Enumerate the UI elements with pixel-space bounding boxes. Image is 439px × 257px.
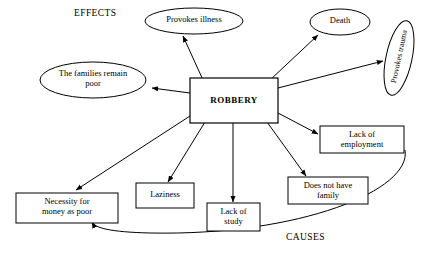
arrow-center-to-necessity-for-money [76,116,190,190]
diagram-shapes-layer [0,0,439,257]
node-lack-of-employment[interactable] [320,126,404,153]
heading-effects: EFFECTS [74,8,116,18]
arrow-center-to-provokes-illness [183,36,203,80]
arrow-center-to-death [270,35,318,80]
node-necessity-for-money[interactable] [16,193,118,223]
node-death[interactable] [310,9,370,35]
node-lack-of-study[interactable] [207,203,260,231]
heading-causes: CAUSES [286,232,325,242]
node-robbery-label: ROBBERY [190,95,278,105]
arrow-center-to-laziness [168,122,205,182]
diagram-canvas: EFFECTS CAUSES Provokes illness Death Pr… [0,0,439,257]
node-laziness[interactable] [136,183,194,208]
arrow-center-to-lack-of-employment [278,113,318,134]
node-provokes-illness[interactable] [145,8,243,34]
node-does-not-have-family[interactable] [288,177,368,204]
arrow-center-to-does-not-have-family [267,122,306,176]
arrow-center-to-families-remain-poor [152,88,190,93]
node-families-remain-poor[interactable] [40,62,146,98]
arrow-center-to-provokes-trauma [278,61,383,88]
